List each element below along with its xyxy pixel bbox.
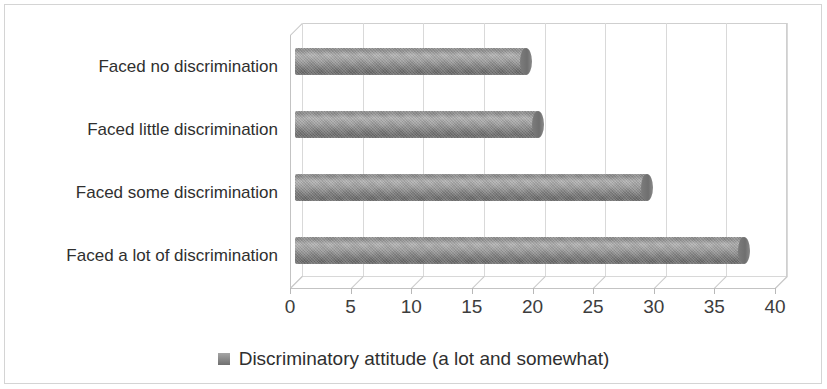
- category-label-1: Faced little discrimination: [87, 120, 278, 140]
- chart-left-axis-line: [290, 35, 291, 288]
- category-label-row: Faced no discrimination: [0, 57, 278, 77]
- category-label-0: Faced no discrimination: [98, 57, 278, 77]
- x-tick-label-0: 0: [260, 297, 320, 317]
- bar-3: [295, 237, 744, 264]
- category-label-2: Faced some discrimination: [76, 183, 278, 203]
- bar-end-cap: [532, 111, 544, 138]
- tick-mark-15: [472, 288, 473, 294]
- tick-mark-40: [775, 288, 776, 294]
- legend-swatch-icon: [218, 353, 230, 365]
- x-tick-label-40: 40: [745, 297, 805, 317]
- x-tick-label-30: 30: [624, 297, 684, 317]
- x-tick-label-10: 10: [381, 297, 441, 317]
- chart-container: 0510152025303540 Faced no discrimination…: [0, 0, 827, 389]
- x-tick-label-25: 25: [563, 297, 623, 317]
- category-label-row: Faced a lot of discrimination: [0, 246, 278, 266]
- chart-legend: Discriminatory attitude (a lot and somew…: [0, 348, 827, 370]
- bar-texture: [295, 48, 525, 75]
- x-tick-label-5: 5: [321, 297, 381, 317]
- bar-2: [295, 174, 647, 201]
- legend-label: Discriminatory attitude (a lot and somew…: [239, 348, 610, 370]
- legend-entry: Discriminatory attitude (a lot and somew…: [218, 348, 610, 370]
- x-tick-label-15: 15: [442, 297, 502, 317]
- bar-end-cap: [520, 48, 532, 75]
- x-tick-label-20: 20: [503, 297, 563, 317]
- bar-texture: [295, 174, 647, 201]
- tick-mark-20: [533, 288, 534, 294]
- tick-mark-5: [351, 288, 352, 294]
- bar-0: [295, 48, 525, 75]
- x-tick-label-35: 35: [684, 297, 744, 317]
- gridline-40: [787, 23, 788, 276]
- tick-mark-30: [654, 288, 655, 294]
- bar-texture: [295, 111, 538, 138]
- category-label-row: Faced some discrimination: [0, 183, 278, 203]
- bar-texture: [295, 237, 744, 264]
- tick-mark-10: [411, 288, 412, 294]
- bar-1: [295, 111, 538, 138]
- category-label-3: Faced a lot of discrimination: [66, 246, 278, 266]
- tick-mark-0: [290, 288, 291, 294]
- tick-mark-35: [714, 288, 715, 294]
- category-label-row: Faced little discrimination: [0, 120, 278, 140]
- tick-mark-25: [593, 288, 594, 294]
